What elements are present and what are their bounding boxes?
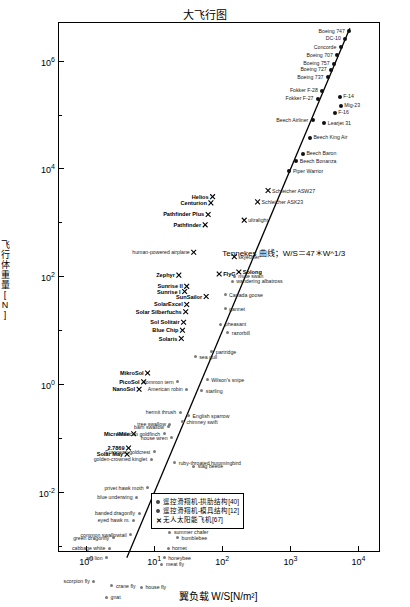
data-point-label: Sol Solitair — [150, 319, 179, 325]
data-point — [138, 512, 141, 515]
data-point-label: SolarExcel — [154, 301, 183, 307]
data-point-label: Learjet 31 — [328, 120, 351, 126]
legend-item-label: 无人太阳能飞机[67] — [163, 516, 223, 523]
data-point-label: Pathfinder Plus — [163, 211, 204, 217]
data-point-cross — [137, 387, 142, 392]
plot-overlay — [59, 23, 379, 551]
data-point-cross — [204, 294, 209, 299]
data-point — [132, 519, 135, 522]
data-point-label: Fokker F-27 — [286, 95, 314, 101]
data-point-label: human-powered airplane — [132, 249, 189, 255]
legend-dot-marker — [156, 509, 160, 513]
data-point-label: Wilson's snipe — [211, 377, 244, 383]
x-tick-mark — [358, 546, 359, 551]
data-point-label: DC-10 — [326, 35, 341, 41]
data-point-cross — [217, 272, 222, 277]
data-point-label: common tern — [143, 379, 173, 385]
x-tick-label: 102 — [202, 555, 242, 567]
y-tick-label: 100 — [9, 379, 55, 391]
data-point-label: Concorde — [314, 44, 337, 50]
x-tick-label: 103 — [270, 555, 310, 567]
data-point-label: MikroSol — [120, 370, 144, 376]
data-point-label: Pathfinder — [173, 222, 201, 228]
data-point-cross — [242, 218, 247, 223]
x-tick-label: 104 — [338, 555, 378, 567]
data-point-label: gannet — [229, 306, 245, 312]
legend-x-marker: ✕ — [156, 516, 161, 525]
data-point-label: scorpion fly — [64, 578, 90, 584]
data-point — [135, 496, 138, 499]
data-point — [224, 307, 227, 310]
data-point — [140, 586, 143, 589]
legend-item: 遥控滑翔机-模具结构[12] — [156, 506, 239, 515]
data-point — [231, 280, 234, 283]
data-point-label: bumblebee — [182, 535, 208, 541]
data-point-label: F-16 — [338, 109, 349, 115]
data-point — [108, 547, 111, 550]
data-point-label: gnat — [111, 594, 121, 600]
data-point — [105, 556, 108, 559]
data-point-label: hermit thrush — [146, 409, 176, 415]
data-point-label: cabbage white — [72, 545, 105, 551]
data-point-cross — [184, 302, 189, 307]
data-point-label: Boeing 727 — [300, 66, 326, 72]
data-point-label: Canada goose — [229, 292, 263, 298]
data-point-cross — [183, 309, 188, 314]
data-point-label: American goldfinch — [116, 431, 160, 437]
data-point — [185, 388, 188, 391]
y-tick-label: 104 — [9, 163, 55, 175]
data-point — [167, 547, 170, 550]
data-point-label: Schleicher ASW27 — [272, 188, 315, 194]
data-point-label: Fokker F-28 — [290, 87, 318, 93]
data-point-label: NanoSol — [112, 386, 135, 392]
y-tick-label: 102 — [9, 271, 55, 283]
data-point-label: Boeing 747 — [319, 28, 345, 34]
data-point — [219, 323, 222, 326]
data-point — [150, 458, 153, 461]
data-point — [192, 465, 195, 468]
legend-item: 遥控滑翔机-拱肋结构[40] — [156, 497, 239, 506]
data-point — [92, 580, 95, 583]
y-minor-tick — [59, 276, 62, 277]
data-point-label: English sparrow — [193, 413, 230, 419]
data-point-label: Zephyr — [156, 272, 175, 278]
data-point-label: ant lion — [86, 555, 103, 561]
data-point-label: meat fly — [166, 561, 184, 567]
data-point — [163, 432, 166, 435]
y-minor-tick — [59, 61, 62, 62]
data-point-label: ultralight — [248, 217, 268, 223]
trendline-annotation: Tennekes 曲线；W/S＝47＊W^1/3 — [222, 247, 345, 258]
data-point — [233, 275, 236, 278]
data-point-label: starling — [206, 388, 223, 394]
data-point-cross — [266, 188, 271, 193]
data-point-label: Boeing 737 — [297, 74, 323, 80]
data-point-label: green dragonfly — [73, 535, 109, 541]
data-point — [339, 104, 343, 108]
data-point-label: Centurion — [180, 200, 206, 206]
data-point — [110, 584, 113, 587]
data-point-label: golden-crowned kinglet — [94, 456, 147, 462]
y-minor-tick — [59, 115, 62, 116]
y-minor-tick — [59, 492, 62, 493]
data-point-cross — [203, 222, 208, 227]
data-point-label: Beech King Air — [313, 134, 347, 140]
data-point — [316, 97, 320, 101]
data-point-cross — [210, 194, 215, 199]
y-minor-tick — [59, 384, 62, 385]
data-point-cross — [255, 199, 260, 204]
data-point — [301, 152, 305, 156]
y-minor-tick — [59, 168, 62, 169]
legend-item-label: 遥控滑翔机-拱肋结构[40] — [163, 498, 239, 505]
x-tick-mark — [154, 546, 155, 551]
plot-area: 10610410210010-2100101102103104Boeing 74… — [58, 22, 380, 552]
data-point-label: chimney swift — [186, 419, 217, 425]
data-point-label: Helios — [192, 194, 209, 200]
data-point-label: Mig-23 — [344, 102, 360, 108]
data-point-label: Piper Warrior — [293, 168, 323, 174]
data-point-label: Beech Baron — [306, 150, 336, 156]
data-point-label: sea gull — [199, 354, 217, 360]
data-point-label: Solaris — [159, 336, 178, 342]
data-point-label: house fly — [145, 584, 166, 590]
data-point-cross — [184, 284, 189, 289]
data-point-label: eyed hawk m. — [98, 517, 130, 523]
